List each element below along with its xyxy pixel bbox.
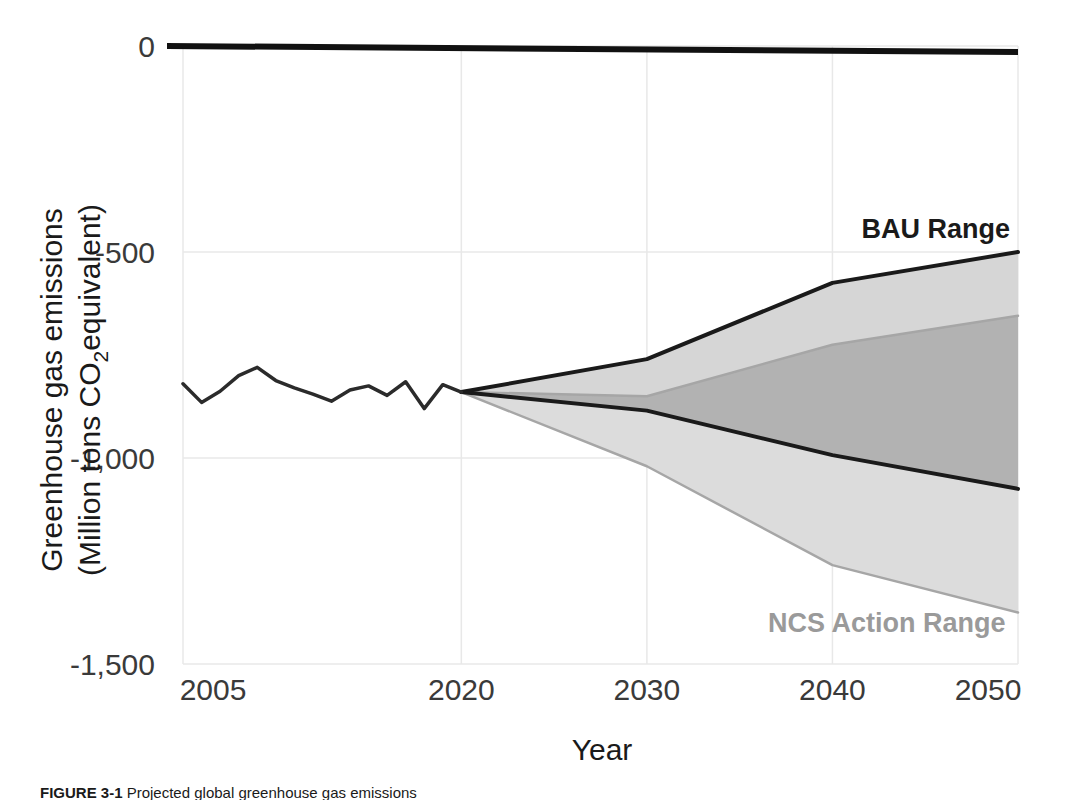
figure-caption-label: FIGURE 3-1 bbox=[40, 784, 123, 800]
y-axis-tick-label: -1,500 bbox=[70, 648, 155, 681]
bau-range-label: BAU Range bbox=[861, 214, 1010, 244]
ncs-action-range-label: NCS Action Range bbox=[768, 608, 1006, 638]
y-axis-title-line1: Greenhouse gas emissions bbox=[35, 208, 68, 572]
y-axis-title-units-suffix: equivalent) bbox=[73, 204, 106, 351]
x-axis-title: Year bbox=[572, 733, 633, 766]
x-axis-tick-label: 2005 bbox=[180, 673, 247, 706]
historical-emissions-line bbox=[183, 367, 461, 408]
figure-caption-body: Projected global greenhouse gas emission… bbox=[123, 784, 417, 800]
x-axis-tick-label: 2020 bbox=[428, 673, 495, 706]
x-axis-tick-label: 2050 bbox=[955, 673, 1022, 706]
y-axis-tick-labels: 0-500-1,000-1,500 bbox=[70, 30, 155, 681]
figure-caption: FIGURE 3-1 Projected global greenhouse g… bbox=[40, 784, 1040, 800]
emissions-projection-chart: 0-500-1,000-1,500 20052020203020402050 Y… bbox=[0, 0, 1067, 800]
y-axis-title-units-prefix: (Million tons CO bbox=[73, 363, 106, 576]
x-axis-tick-label: 2040 bbox=[799, 673, 866, 706]
figure-container: 0-500-1,000-1,500 20052020203020402050 Y… bbox=[0, 0, 1067, 800]
x-axis-tick-labels: 20052020203020402050 bbox=[180, 673, 1022, 706]
y-axis-title-subscript: 2 bbox=[89, 351, 112, 363]
zero-reference-line bbox=[167, 46, 1018, 52]
x-axis-tick-label: 2030 bbox=[614, 673, 681, 706]
y-axis-tick-label: 0 bbox=[138, 30, 155, 63]
